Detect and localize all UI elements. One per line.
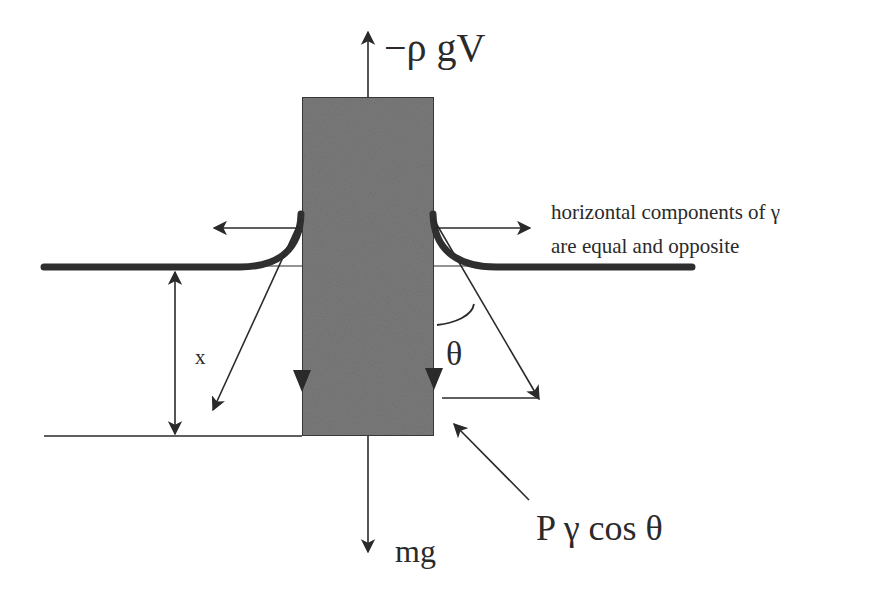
diagram-canvas [0,0,879,593]
weight-label: mg [395,535,436,567]
vertical-tension-pointer-arrow [454,424,529,500]
vertical-tension-label: P γ cos θ [536,510,663,546]
contact-angle-label: θ [446,337,462,371]
left-tension-vector-arrow [213,218,301,410]
force-diagram: −ρ gV horizontal components of γ are equ… [0,0,879,593]
contact-angle-arc [437,304,474,325]
immersed-body [302,97,434,436]
tension-note-line2: are equal and opposite [551,236,739,257]
depth-label: x [195,347,206,368]
left-liquid-surface [44,214,301,267]
tension-note-line1: horizontal components of γ [551,202,780,223]
buoyancy-label: −ρ gV [384,28,485,68]
